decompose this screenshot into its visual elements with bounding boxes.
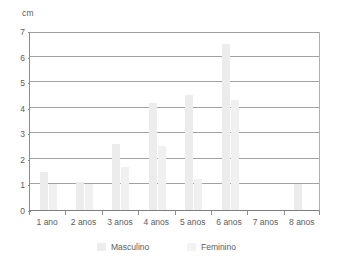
x-axis-tick-mark [319, 211, 320, 215]
legend-item: Feminino [187, 242, 236, 252]
legend-item: Masculino [97, 242, 149, 252]
bar-group [66, 33, 102, 210]
x-axis-tick-mark [211, 211, 212, 215]
y-axis-tick-label: 0 [5, 206, 25, 216]
bar-masculino [112, 144, 120, 210]
x-axis-label: 8 anos [289, 217, 315, 227]
legend-label: Masculino [111, 242, 149, 252]
y-axis-tick-label: 1 [5, 180, 25, 190]
x-axis-label: 2 anos [71, 217, 97, 227]
plot-area [29, 32, 320, 211]
bar-chart: cm 01234567 1 ano2 anos3 anos4 anos5 ano… [0, 0, 340, 264]
legend-label: Feminino [201, 242, 236, 252]
x-axis-label: 4 anos [144, 217, 170, 227]
x-axis-tick-mark [175, 211, 176, 215]
bar-feminino [49, 184, 57, 210]
x-axis-label: 6 anos [216, 217, 242, 227]
x-axis-label: 1 ano [37, 217, 58, 227]
bar-feminino [85, 184, 93, 210]
bar-group [285, 33, 321, 210]
masculino-swatch [97, 243, 106, 251]
bar-feminino [231, 100, 239, 210]
bar-group [176, 33, 212, 210]
x-axis-tick-mark [29, 211, 30, 215]
x-axis-label: 7 anos [253, 217, 279, 227]
chart-legend: MasculinoFeminino [0, 242, 340, 258]
bar-group [30, 33, 66, 210]
x-axis-tick-mark [65, 211, 66, 215]
x-axis-labels: 1 ano2 anos3 anos4 anos5 anos6 anos7 ano… [29, 217, 320, 231]
bar-masculino [149, 103, 157, 210]
x-axis-tick-marks [29, 211, 320, 216]
y-axis-tick-label: 6 [5, 53, 25, 63]
x-axis-tick-mark [138, 211, 139, 215]
bar-masculino [294, 184, 302, 210]
bar-group [248, 33, 284, 210]
bars-layer [30, 33, 319, 210]
bar-feminino [158, 146, 166, 210]
feminino-swatch [187, 243, 196, 251]
bar-group [139, 33, 175, 210]
x-axis-label: 3 anos [107, 217, 133, 227]
x-axis-tick-mark [284, 211, 285, 215]
bar-feminino [194, 179, 202, 210]
y-axis-tick-label: 3 [5, 129, 25, 139]
x-axis-tick-mark [102, 211, 103, 215]
bar-masculino [40, 172, 48, 210]
bar-masculino [222, 44, 230, 210]
y-axis-tick-label: 4 [5, 104, 25, 114]
x-axis-tick-mark [247, 211, 248, 215]
y-axis-tick-label: 2 [5, 155, 25, 165]
y-axis-unit-label: cm [22, 8, 34, 18]
y-axis-ticks: 01234567 [3, 32, 25, 211]
x-axis-label: 5 anos [180, 217, 206, 227]
y-axis-tick-label: 7 [5, 27, 25, 37]
bar-feminino [121, 167, 129, 210]
bar-masculino [185, 95, 193, 210]
y-axis-tick-label: 5 [5, 78, 25, 88]
bar-masculino [76, 182, 84, 210]
bar-group [103, 33, 139, 210]
bar-group [212, 33, 248, 210]
